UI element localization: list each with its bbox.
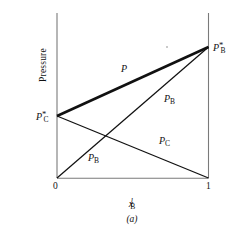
x-tick-1: 1 (206, 182, 211, 192)
partial-pressure-c-line (57, 116, 209, 178)
partial-c-subscript: C (165, 139, 170, 148)
pure-c-subscript: C (44, 116, 49, 124)
partial-pressure-b-line (57, 47, 209, 178)
total-pressure-line (57, 47, 209, 116)
pure-b-pressure-label: P*B (213, 41, 226, 54)
pure-b-subscript: B (221, 47, 226, 55)
y-axis-title: Pressure (38, 25, 52, 105)
pure-c-pressure-label: P*C (36, 110, 49, 123)
x-axis-subscript: B (130, 203, 135, 211)
x-axis-title: xlB (112, 198, 152, 211)
partial-b-lower-subscript: B (94, 156, 99, 165)
x-tick-0: 0 (53, 182, 58, 192)
panel-caption: (a) (112, 215, 152, 225)
partial-pressure-c-label: PC (159, 136, 170, 147)
partial-pressure-b-lower-label: PB (88, 153, 99, 164)
partial-b-upper-subscript: B (170, 97, 175, 106)
scan-speck (166, 46, 168, 48)
total-pressure-label: P (121, 64, 127, 74)
partial-pressure-b-upper-label: PB (164, 94, 175, 105)
figure-container: Pressure 0 1 P*C P*B P PB PC PB xlB (a) (0, 0, 243, 234)
